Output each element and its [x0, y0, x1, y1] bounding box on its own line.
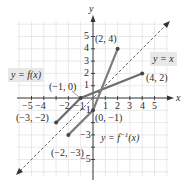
label-f-inverse-sup: −1: [120, 131, 128, 139]
label-f-inverse-suffix: (x): [128, 132, 139, 143]
point-2-4: [116, 47, 120, 51]
x-axis-label: x: [176, 93, 180, 103]
y-tick: −1: [80, 105, 91, 115]
label-point-4-2: (4, 2): [146, 73, 168, 83]
point-m3-m2: [54, 121, 58, 125]
label-f: y = f(x): [8, 68, 44, 82]
label-point-m1-0: (−1, 0): [49, 82, 76, 92]
y-tick: 2: [84, 68, 89, 78]
y-axis-label: y: [89, 4, 93, 14]
label-point-m2-m3: (−2, −3): [51, 148, 84, 158]
y-tick: 1: [84, 80, 89, 90]
y-tick: 3: [84, 56, 89, 66]
y-tick: −3: [80, 130, 91, 140]
y-tick: 5: [84, 31, 89, 41]
y-tick: 4: [84, 43, 89, 53]
x-tick: 5: [152, 101, 157, 111]
x-tick: −5: [22, 101, 33, 111]
x-tick: 2: [115, 101, 120, 111]
x-tick: −2: [59, 101, 70, 111]
x-axis-arrow-icon: [167, 96, 174, 101]
label-point-m3-m2: (−3, −2): [16, 113, 49, 123]
graph-canvas: [0, 0, 185, 190]
x-tick: −4: [35, 101, 46, 111]
label-identity: y = x: [150, 52, 177, 66]
y-axis-arrow-icon: [91, 15, 96, 22]
label-f-inverse: y = f−1(x): [101, 132, 139, 143]
x-tick: 4: [140, 101, 145, 111]
label-point-2-4: (2, 4): [95, 34, 117, 44]
point-m2-m3: [66, 133, 70, 137]
point-4-2: [140, 71, 144, 75]
x-tick: 3: [127, 101, 132, 111]
label-f-inverse-prefix: y = f: [101, 132, 120, 143]
x-tick: 1: [103, 101, 108, 111]
label-point-0-m1: (0, −1): [95, 113, 122, 123]
